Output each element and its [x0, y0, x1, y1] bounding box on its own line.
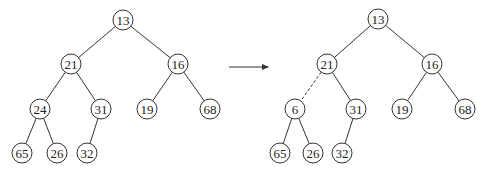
node-label: 68: [204, 102, 217, 117]
right-tree-edges: [283, 25, 459, 143]
node-label: 19: [396, 102, 409, 117]
left-tree-edges: [26, 26, 204, 143]
right-edge-16-19: [408, 72, 427, 100]
right-edge-6-65: [283, 118, 292, 143]
left-edge-13-21: [79, 26, 116, 57]
left-node-68: 68: [200, 99, 220, 119]
right-edge-16-68: [438, 72, 459, 101]
node-label: 65: [16, 146, 29, 161]
heap-diagram: 13211624311968652632 1321166311968652632: [0, 0, 484, 176]
right-node-21: 21: [317, 54, 337, 74]
node-label: 19: [141, 102, 154, 117]
right-node-65: 65: [270, 143, 290, 163]
left-node-16: 16: [168, 54, 188, 74]
node-label: 16: [426, 57, 440, 72]
node-label: 26: [51, 146, 65, 161]
node-label: 31: [350, 102, 363, 117]
node-label: 21: [65, 57, 78, 72]
node-label: 32: [81, 146, 94, 161]
node-label: 6: [292, 102, 299, 117]
left-edge-16-19: [153, 72, 173, 101]
right-node-16: 16: [422, 54, 442, 74]
right-edge-31-32: [345, 119, 353, 144]
left-edge-24-26: [44, 118, 54, 143]
left-node-26: 26: [47, 143, 67, 163]
left-node-21: 21: [61, 54, 81, 74]
node-label: 26: [307, 146, 321, 161]
left-node-65: 65: [12, 143, 32, 163]
left-node-24: 24: [30, 99, 50, 119]
right-node-68: 68: [455, 99, 475, 119]
left-edge-21-31: [77, 72, 96, 100]
right-tree: 1321166311968652632: [270, 9, 475, 163]
left-edge-31-32: [90, 119, 98, 144]
left-edge-21-24: [46, 72, 66, 101]
left-node-19: 19: [137, 99, 157, 119]
right-edge-21-31: [332, 72, 350, 100]
left-node-13: 13: [113, 10, 133, 30]
node-label: 31: [95, 102, 108, 117]
node-label: 16: [172, 57, 186, 72]
left-tree: 13211624311968652632: [12, 10, 220, 163]
left-edge-16-68: [184, 72, 204, 101]
left-edge-13-16: [131, 26, 170, 58]
right-node-32: 32: [332, 143, 352, 163]
left-edge-24-65: [26, 118, 36, 143]
right-node-19: 19: [392, 99, 412, 119]
node-label: 13: [117, 13, 130, 28]
right-node-6: 6: [285, 99, 305, 119]
node-label: 65: [274, 146, 287, 161]
node-label: 32: [336, 146, 349, 161]
node-label: 13: [372, 12, 385, 27]
right-edge-21-6: [301, 72, 321, 101]
node-label: 68: [459, 102, 472, 117]
right-edge-13-21: [334, 26, 370, 58]
right-node-13: 13: [368, 9, 388, 29]
node-label: 24: [34, 102, 48, 117]
right-edge-13-16: [386, 25, 425, 57]
node-label: 21: [321, 57, 334, 72]
right-node-26: 26: [303, 143, 323, 163]
left-node-31: 31: [91, 99, 111, 119]
right-node-31: 31: [346, 99, 366, 119]
left-node-32: 32: [77, 143, 97, 163]
right-edge-6-26: [299, 118, 309, 143]
